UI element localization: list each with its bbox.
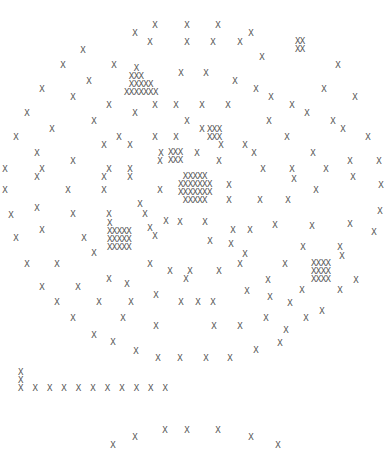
x-mark: X [91, 249, 96, 257]
x-mark: X [313, 186, 318, 194]
x-mark: X [218, 141, 223, 149]
x-mark: X [163, 217, 168, 225]
x-mark: X [106, 210, 111, 218]
x-mark: X [275, 441, 280, 449]
x-mark: X [132, 433, 137, 441]
x-mark: X [39, 165, 44, 173]
x-mark: X [101, 186, 106, 194]
x-mark: X [199, 125, 204, 133]
x-mark: X [285, 196, 290, 204]
x-mark: X [91, 331, 96, 339]
x-mark: X [173, 101, 178, 109]
x-mark: X [34, 149, 39, 157]
x-mark: X [267, 293, 272, 301]
x-mark: X [242, 250, 247, 258]
x-mark: X [377, 207, 382, 215]
x-mark: X [101, 141, 106, 149]
x-mark: X [310, 149, 315, 157]
x-mark: X [335, 61, 340, 69]
x-mark: X [127, 173, 132, 181]
x-mark: X [203, 354, 208, 362]
x-mark: X [371, 228, 376, 236]
x-mark: X [282, 260, 287, 268]
x-mark: X [96, 298, 101, 306]
x-mark: X [167, 267, 172, 275]
x-mark: X [287, 299, 292, 307]
x-cluster: XXX XXX [168, 148, 182, 164]
x-mark: X [207, 237, 212, 245]
x-mark: X [106, 275, 111, 283]
x-mark: X [39, 85, 44, 93]
x-mark: X [253, 346, 258, 354]
x-mark: X [304, 109, 309, 117]
x-mark: X [203, 69, 208, 77]
x-mark: X [101, 173, 106, 181]
x-mark: X [128, 298, 133, 306]
x-mark: X [2, 165, 7, 173]
x-mark: X [132, 29, 137, 37]
x-mark: X [215, 426, 220, 434]
x-mark: X [211, 322, 216, 330]
x-mark: X [300, 243, 305, 251]
x-mark: X [247, 226, 252, 234]
x-mark: X [39, 283, 44, 291]
x-mark: X [265, 276, 270, 284]
x-mark: X [184, 38, 189, 46]
x-mark: X [330, 117, 335, 125]
x-mark: X [155, 354, 160, 362]
x-mark: X [230, 226, 235, 234]
x-mark: X [195, 298, 200, 306]
x-mark: X [283, 326, 288, 334]
x-mark: X [244, 287, 249, 295]
x-mark: X [142, 210, 147, 218]
x-mark: X [24, 109, 29, 117]
x-mark: X [347, 157, 352, 165]
x-mark: X [24, 260, 29, 268]
x-cluster: XX XX [295, 37, 305, 53]
x-mark: X [237, 322, 242, 330]
x-mark: X [226, 196, 231, 204]
x-mark: X [184, 117, 189, 125]
x-mark: X [153, 291, 158, 299]
x-mark: X [152, 101, 157, 109]
x-mark: X [242, 141, 247, 149]
x-cluster: X X X X X X X X X X X X X [18, 368, 167, 392]
x-mark: X [34, 173, 39, 181]
x-mark: X [110, 338, 115, 346]
x-mark: X [49, 125, 54, 133]
x-mark: X [266, 117, 271, 125]
x-mark: X [226, 181, 231, 189]
x-mark: X [365, 133, 370, 141]
x-mark: X [152, 133, 157, 141]
x-mark: X [303, 314, 308, 322]
x-mark: X [133, 347, 138, 355]
x-mark: X [147, 38, 152, 46]
x-mark: X [291, 175, 296, 183]
x-mark: X [80, 46, 85, 54]
x-mark: X [237, 38, 242, 46]
x-mark: X [75, 283, 80, 291]
x-cluster: XXXXX XXXXXXX XXXXXXX XXXXX [178, 172, 212, 204]
x-mark: X [106, 165, 111, 173]
x-mark: X [8, 211, 13, 219]
x-mark: X [137, 200, 142, 208]
x-mark: X [178, 69, 183, 77]
x-mark: X [299, 286, 304, 294]
x-mark: X [157, 157, 162, 165]
x-mark: X [184, 21, 189, 29]
x-mark: X [132, 109, 137, 117]
x-mark: X [340, 125, 345, 133]
x-mark: X [268, 93, 273, 101]
x-mark: X [347, 220, 352, 228]
x-mark: X [257, 196, 262, 204]
x-mark: X [210, 298, 215, 306]
x-mark: X [202, 218, 207, 226]
x-mark: X [157, 186, 162, 194]
x-mark: X [232, 77, 237, 85]
x-mark: X [309, 222, 314, 230]
x-mark: X [337, 243, 342, 251]
x-mark: X [378, 181, 383, 189]
x-cluster: XXX XXX [207, 125, 221, 141]
x-mark: X [70, 314, 75, 322]
x-mark: X [70, 93, 75, 101]
